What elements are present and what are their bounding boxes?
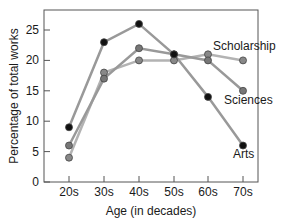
x-tick-label: 20s xyxy=(59,185,78,199)
line-chart: 0510152025 20s30s40s50s60s70s Percentage… xyxy=(0,0,282,221)
x-tick-label: 30s xyxy=(94,185,113,199)
y-tick-label: 25 xyxy=(26,23,40,37)
y-tick-label: 0 xyxy=(32,175,39,189)
x-tick-label: 60s xyxy=(198,185,217,199)
series-label-arts: Arts xyxy=(233,147,254,161)
data-point-scholarship xyxy=(240,57,247,64)
data-point-sciences xyxy=(205,57,212,64)
series-label-scholarship: Scholarship xyxy=(213,39,276,53)
data-point-scholarship xyxy=(66,154,73,161)
x-tick-label: 40s xyxy=(129,185,148,199)
x-tick-label: 50s xyxy=(164,185,183,199)
y-tick-label: 15 xyxy=(26,84,40,98)
series-label-sciences: Sciences xyxy=(224,93,273,107)
data-point-sciences xyxy=(66,142,73,149)
y-tick-label: 5 xyxy=(32,145,39,159)
data-point-arts xyxy=(205,93,212,100)
y-tick-label: 10 xyxy=(26,114,40,128)
x-tick-label: 70s xyxy=(233,185,252,199)
data-point-arts xyxy=(66,124,73,131)
data-point-arts xyxy=(136,20,143,27)
y-tick-label: 20 xyxy=(26,53,40,67)
x-axis-label: Age (in decades) xyxy=(106,204,197,218)
data-point-sciences xyxy=(136,45,143,52)
data-point-scholarship xyxy=(136,57,143,64)
data-point-arts xyxy=(171,51,178,58)
data-point-arts xyxy=(101,39,108,46)
y-axis-label: Percentage of total works xyxy=(7,28,21,163)
data-point-sciences xyxy=(101,75,108,82)
